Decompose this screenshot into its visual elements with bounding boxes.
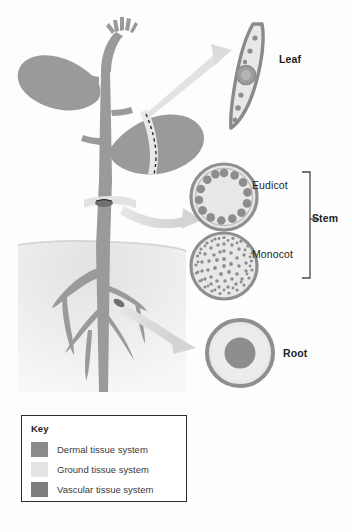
key-item-vascular: Vascular tissue system xyxy=(31,481,153,497)
key-item-ground: Ground tissue system xyxy=(31,461,149,477)
shoot-apex xyxy=(106,17,138,34)
upper-leaf xyxy=(18,55,101,110)
key-swatch-dermal xyxy=(31,442,48,457)
key-label-vascular: Vascular tissue system xyxy=(57,484,153,495)
root-vascular-cylinder xyxy=(225,338,256,369)
key-label-ground: Ground tissue system xyxy=(57,464,149,475)
stem-arrow xyxy=(120,206,190,228)
key-item-dermal: Dermal tissue system xyxy=(31,441,148,457)
label-leaf: Leaf xyxy=(279,54,301,65)
label-root: Root xyxy=(283,348,307,359)
stem-bracket xyxy=(302,172,319,278)
label-stem: Stem xyxy=(312,213,338,224)
leaf-pointer xyxy=(148,54,221,117)
eudicot-stem-cross-section xyxy=(191,164,257,230)
monocot-stem-cross-section xyxy=(191,233,257,299)
leaf-cross-section xyxy=(231,24,263,128)
key-label-dermal: Dermal tissue system xyxy=(57,444,148,455)
key-title: Key xyxy=(31,423,48,434)
lower-leaf xyxy=(110,110,204,175)
leaf-midrib-bundle xyxy=(237,66,256,85)
root-cross-section xyxy=(207,320,273,386)
figure-canvas: Leaf Eudicot Monocot Stem Root Key Derma… xyxy=(0,0,352,532)
key-swatch-ground xyxy=(31,462,48,477)
key-swatch-vascular xyxy=(31,482,48,497)
key-legend: Key Dermal tissue system Ground tissue s… xyxy=(21,415,187,502)
label-monocot: Monocot xyxy=(252,249,293,260)
label-eudicot: Eudicot xyxy=(252,180,288,191)
